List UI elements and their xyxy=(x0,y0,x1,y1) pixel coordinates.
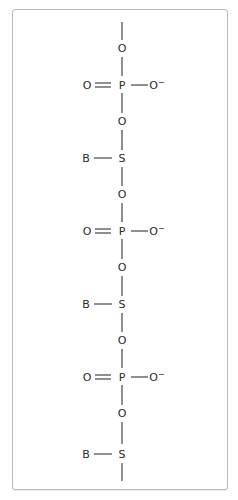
atom-o-bridge-bottom: O xyxy=(118,115,127,128)
atom-o-anion: O− xyxy=(149,224,164,238)
atom-sugar: S xyxy=(119,152,126,165)
atom-base: B xyxy=(82,298,90,311)
atom-o-double: O xyxy=(83,371,92,384)
atom-base: B xyxy=(82,448,90,461)
atom-p: P xyxy=(119,371,126,384)
atom-o-bridge-top: O xyxy=(118,42,127,55)
atom-p: P xyxy=(119,225,126,238)
atom-o-bridge-top: O xyxy=(118,188,127,201)
atom-o-bridge-bottom: O xyxy=(118,261,127,274)
atom-o-double: O xyxy=(83,79,92,92)
atom-sugar: S xyxy=(119,298,126,311)
atom-p: P xyxy=(119,79,126,92)
atom-o-bridge-top: O xyxy=(118,334,127,347)
atom-o-anion: O− xyxy=(149,370,164,384)
nucleotide-unit-1: O P O O− O S B xyxy=(82,42,164,186)
nucleotide-unit-3: O P O O− O S B xyxy=(82,334,164,481)
atom-base: B xyxy=(82,152,90,165)
atom-sugar: S xyxy=(119,448,126,461)
atom-o-anion: O− xyxy=(149,78,164,92)
backbone-diagram: O P O O− O S B O P O O− O S B O P O xyxy=(0,0,238,500)
nucleotide-unit-2: O P O O− O S B xyxy=(82,188,164,332)
atom-o-bridge-bottom: O xyxy=(118,407,127,420)
atom-o-double: O xyxy=(83,225,92,238)
